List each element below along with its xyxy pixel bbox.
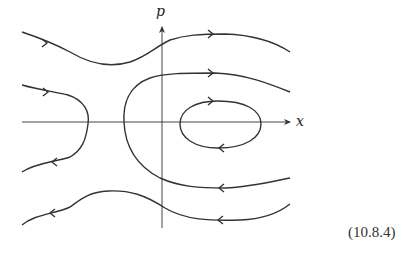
- arrowhead-left-icon: [52, 158, 57, 166]
- large-c-orbit: [124, 73, 290, 188]
- arrowhead-right-icon: [43, 88, 48, 96]
- direction-arrows: [42, 30, 224, 224]
- bottom-open-orbit: [22, 191, 290, 225]
- trajectories: [22, 32, 290, 225]
- x-axis-label: x: [296, 113, 304, 129]
- p-axis-label: p: [156, 3, 165, 19]
- phase-portrait-diagram: x p: [0, 0, 410, 254]
- equation-number: (10.8.4): [348, 224, 396, 241]
- closed-orbit: [180, 101, 261, 148]
- top-open-orbit: [22, 32, 290, 65]
